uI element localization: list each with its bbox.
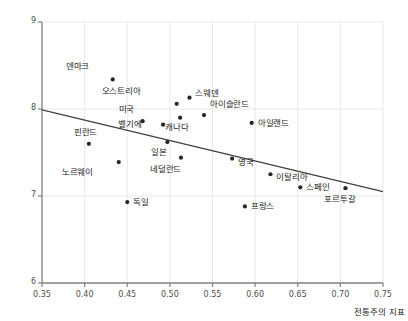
point-label: 덴마크: [66, 59, 89, 71]
x-axis-tick-label: 0.50: [150, 290, 190, 299]
point-label: 아이슬란드: [210, 97, 249, 109]
point-label: 일본: [151, 145, 167, 157]
point-label: 네덜란드: [150, 162, 181, 174]
point-label: 오스트리아: [102, 84, 141, 96]
data-point: [125, 200, 129, 204]
data-point: [179, 156, 183, 160]
x-axis-tick-label: 0.65: [278, 290, 318, 299]
point-label: 포르투갈: [324, 192, 355, 204]
point-label: 캐나다: [165, 120, 188, 132]
data-point: [117, 160, 121, 164]
point-label: 노르웨이: [62, 165, 93, 177]
point-label: 스페인: [306, 180, 329, 192]
data-point: [343, 186, 347, 190]
data-point: [298, 185, 302, 189]
x-axis-tick-label: 0.40: [65, 290, 105, 299]
scatter-chart: 67890.350.400.450.500.550.600.650.700.75…: [0, 0, 408, 321]
chart-canvas: [0, 0, 408, 321]
x-axis-tick-label: 0.45: [107, 290, 147, 299]
data-point: [250, 121, 254, 125]
x-axis-tick-label: 0.70: [320, 290, 360, 299]
x-axis-title: 전통주의 지표: [354, 305, 405, 317]
data-point: [230, 156, 234, 160]
y-axis-tick-label: 6: [16, 277, 36, 286]
data-point: [202, 113, 206, 117]
point-label: 아일랜드: [258, 116, 289, 128]
point-label: 벨기에: [118, 117, 141, 129]
data-point: [111, 77, 115, 81]
x-axis-tick-label: 0.55: [193, 290, 233, 299]
point-label: 핀란드: [74, 125, 97, 137]
point-label: 미국: [119, 102, 135, 114]
x-axis-tick-label: 0.35: [22, 290, 62, 299]
data-point: [87, 142, 91, 146]
point-label: 프랑스: [251, 199, 274, 211]
data-point: [243, 204, 247, 208]
x-axis-tick-label: 0.60: [235, 290, 275, 299]
data-point: [175, 102, 179, 106]
point-label: 영국: [238, 155, 254, 167]
data-point: [165, 140, 169, 144]
y-axis-tick-label: 7: [16, 190, 36, 199]
data-point: [187, 96, 191, 100]
y-axis-tick-label: 8: [16, 103, 36, 112]
point-label: 독일: [133, 195, 149, 207]
y-axis-tick-label: 9: [16, 16, 36, 25]
x-axis-tick-label: 0.75: [363, 290, 403, 299]
point-label: 이탈리아: [276, 170, 307, 182]
point-label: 스웨덴: [195, 86, 218, 98]
data-point: [268, 172, 272, 176]
